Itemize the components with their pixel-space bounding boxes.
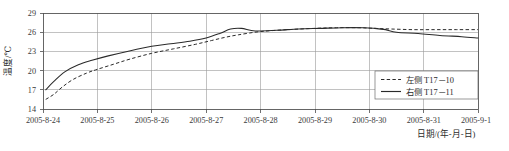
- y-tick-label: 14: [28, 105, 36, 114]
- x-tick-label: 2005-8-31: [407, 116, 441, 125]
- chart-canvas: 29 26 23 20 17 14 温度/℃ 2005-8-24 2005-8-…: [0, 0, 509, 151]
- y-tick-label: 23: [28, 47, 36, 56]
- legend[interactable]: 左侧 T17－10 右侧 T17－11: [375, 71, 478, 99]
- x-axis-tick-marks: [43, 109, 478, 113]
- x-tick-label: 2005-8-27: [189, 116, 223, 125]
- legend-label-left: 左侧 T17－10: [406, 75, 454, 85]
- y-tick-label: 20: [28, 67, 36, 76]
- x-tick-label: 2005-8-28: [244, 116, 278, 125]
- y-axis-tick-marks: [40, 13, 44, 109]
- x-tick-label: 2005-8-24: [26, 116, 60, 125]
- x-tick-label: 2005-8-26: [135, 116, 169, 125]
- y-tick-label: 26: [28, 28, 36, 37]
- x-tick-label: 2005-8-30: [352, 116, 386, 125]
- x-axis-title: 日期/(年-月-日): [417, 128, 476, 139]
- legend-label-right: 右侧 T17－11: [406, 87, 454, 97]
- y-tick-label: 17: [28, 86, 36, 95]
- x-tick-label: 2005-8-29: [298, 116, 332, 125]
- y-tick-label: 29: [28, 9, 36, 18]
- y-axis-tick-labels: 29 26 23 20 17 14: [28, 9, 36, 114]
- temperature-line-chart: 29 26 23 20 17 14 温度/℃ 2005-8-24 2005-8-…: [0, 0, 509, 151]
- x-tick-label: 2005-8-25: [80, 116, 114, 125]
- x-tick-label: 2005-9-1: [461, 116, 491, 125]
- y-axis-title: 温度/℃: [2, 46, 13, 76]
- x-axis-tick-labels: 2005-8-24 2005-8-25 2005-8-26 2005-8-27 …: [26, 116, 491, 125]
